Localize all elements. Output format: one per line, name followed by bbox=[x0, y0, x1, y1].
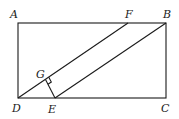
segment-eb bbox=[55, 23, 166, 98]
label-e: E bbox=[47, 103, 56, 116]
label-g: G bbox=[36, 68, 45, 81]
label-d: D bbox=[11, 102, 21, 115]
geometry-diagram: A F B C D E G bbox=[0, 0, 179, 119]
rectangle-abcd bbox=[18, 23, 166, 98]
label-b: B bbox=[162, 8, 171, 21]
label-a: A bbox=[9, 8, 18, 21]
label-f: F bbox=[124, 8, 133, 21]
label-c: C bbox=[161, 102, 170, 115]
right-angle-marker bbox=[48, 77, 51, 84]
segment-df bbox=[18, 23, 128, 98]
